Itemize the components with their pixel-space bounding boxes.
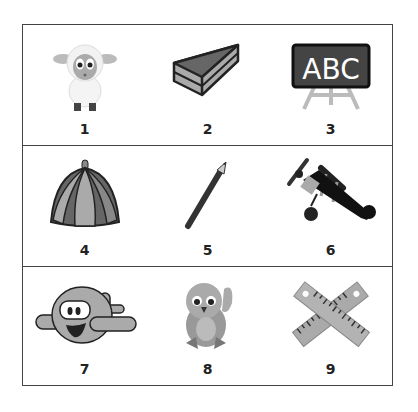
grid-cell-7[interactable]: 7 xyxy=(23,267,146,385)
bird-icon xyxy=(146,275,269,355)
grid-cell-4[interactable]: 4 xyxy=(23,146,146,266)
pencil-icon xyxy=(146,154,269,234)
chalkboard-text: ABC xyxy=(302,53,359,86)
crossed-rulers-icon xyxy=(269,275,392,355)
item-number: 4 xyxy=(23,242,146,258)
grid-cell-2[interactable]: 2 xyxy=(146,25,269,145)
grid-cell-9[interactable]: 9 xyxy=(269,267,392,385)
grid-row-1: 1 2 ABC xyxy=(23,25,392,146)
item-number: 7 xyxy=(23,361,146,377)
sheep-icon xyxy=(23,33,146,113)
grid-cell-8[interactable]: 8 xyxy=(146,267,269,385)
grid-cell-6[interactable]: 6 xyxy=(269,146,392,266)
cake-slice-icon xyxy=(146,33,269,113)
worksheet-grid: 1 2 ABC xyxy=(22,24,393,386)
item-number: 6 xyxy=(269,242,392,258)
item-number: 5 xyxy=(146,242,269,258)
item-number: 8 xyxy=(146,361,269,377)
cartoon-airplane-icon xyxy=(23,275,146,355)
item-number: 1 xyxy=(23,121,146,137)
chalkboard-icon: ABC xyxy=(269,33,392,113)
item-number: 2 xyxy=(146,121,269,137)
item-number: 9 xyxy=(269,361,392,377)
item-number: 3 xyxy=(269,121,392,137)
cap-icon xyxy=(23,154,146,234)
grid-cell-3[interactable]: ABC 3 xyxy=(269,25,392,145)
grid-row-2: 4 5 xyxy=(23,146,392,267)
grid-cell-1[interactable]: 1 xyxy=(23,25,146,145)
grid-cell-5[interactable]: 5 xyxy=(146,146,269,266)
biplane-icon xyxy=(269,154,392,234)
grid-row-3: 7 8 xyxy=(23,267,392,385)
